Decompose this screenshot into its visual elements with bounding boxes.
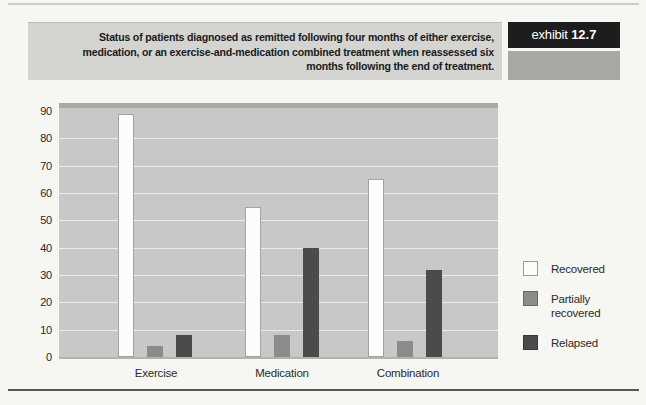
top-rule [8, 3, 639, 5]
x-label-exercise: Exercise [106, 366, 206, 380]
x-label-combination: Combination [358, 366, 458, 380]
legend-label: Recovered [551, 262, 615, 276]
y-tick-40: 40 [16, 241, 52, 255]
y-tick-90: 90 [16, 104, 52, 118]
y-tick-30: 30 [16, 268, 52, 282]
exhibit-underblock [508, 51, 620, 80]
bar-exercise-recovered [118, 114, 134, 357]
y-tick-0: 0 [16, 350, 52, 364]
legend-swatch [523, 291, 538, 306]
y-tick-50: 50 [16, 213, 52, 227]
legend-label: Partially recovered [551, 292, 615, 320]
bottom-rule [8, 389, 639, 391]
plot-area [59, 103, 498, 359]
legend-swatch [523, 261, 538, 276]
y-tick-10: 10 [16, 323, 52, 337]
legend-item-recovered: Recovered [523, 262, 615, 276]
bar-exercise-partially-recovered [147, 346, 163, 357]
legend-item-partially-recovered: Partially recovered [523, 292, 615, 320]
exhibit-label: exhibit [532, 27, 568, 42]
exhibit-caption-line: medication, or an exercise-and-medicatio… [58, 45, 494, 60]
exhibit-badge: exhibit 12.7 [508, 22, 620, 48]
bar-combination-recovered [368, 179, 384, 357]
legend-swatch [523, 335, 538, 350]
figure-page: Status of patients diagnosed as remitted… [0, 0, 646, 405]
bar-medication-partially-recovered [274, 335, 290, 357]
bar-medication-recovered [245, 207, 261, 357]
bar-combination-relapsed [426, 270, 442, 357]
y-tick-70: 70 [16, 159, 52, 173]
y-tick-80: 80 [16, 131, 52, 145]
legend: RecoveredPartially recoveredRelapsed [523, 262, 615, 350]
legend-label: Relapsed [551, 336, 615, 350]
bar-combination-partially-recovered [397, 341, 413, 357]
exhibit-caption-line: Status of patients diagnosed as remitted… [58, 30, 494, 45]
legend-item-relapsed: Relapsed [523, 336, 615, 350]
x-label-medication: Medication [232, 366, 332, 380]
bar-exercise-relapsed [176, 335, 192, 357]
y-tick-20: 20 [16, 295, 52, 309]
exhibit-caption: Status of patients diagnosed as remitted… [28, 22, 502, 80]
y-tick-60: 60 [16, 186, 52, 200]
bar-medication-relapsed [303, 248, 319, 357]
exhibit-caption-line: months following the end of treatment. [58, 59, 494, 74]
exhibit-number: 12.7 [571, 27, 596, 42]
